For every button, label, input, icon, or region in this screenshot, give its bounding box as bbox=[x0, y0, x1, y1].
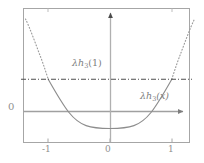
plot-canvas bbox=[0, 0, 204, 163]
h-subscript: 3 bbox=[84, 62, 88, 70]
parabola-curve-label: λh3(x) bbox=[140, 90, 169, 101]
threshold-argument: (1) bbox=[88, 57, 101, 68]
x-tick-label-zero: 0 bbox=[105, 144, 111, 154]
x-axis-ticks-top bbox=[48, 9, 172, 13]
curve-argument: (x) bbox=[156, 90, 169, 101]
plot-frame bbox=[24, 9, 190, 143]
parabola-dotted-left-branch bbox=[26, 19, 49, 79]
h-subscript: 3 bbox=[152, 95, 156, 103]
figure-container: λh3(1) λh3(x) 0 -1 0 1 bbox=[0, 0, 204, 163]
x-tick-label-minus-one: -1 bbox=[42, 144, 51, 154]
x-tick-label-one: 1 bbox=[168, 144, 174, 154]
threshold-line-label: λh3(1) bbox=[72, 57, 102, 68]
parabola-dotted-right-branch bbox=[172, 19, 195, 79]
y-axis-origin-label: 0 bbox=[8, 101, 14, 112]
